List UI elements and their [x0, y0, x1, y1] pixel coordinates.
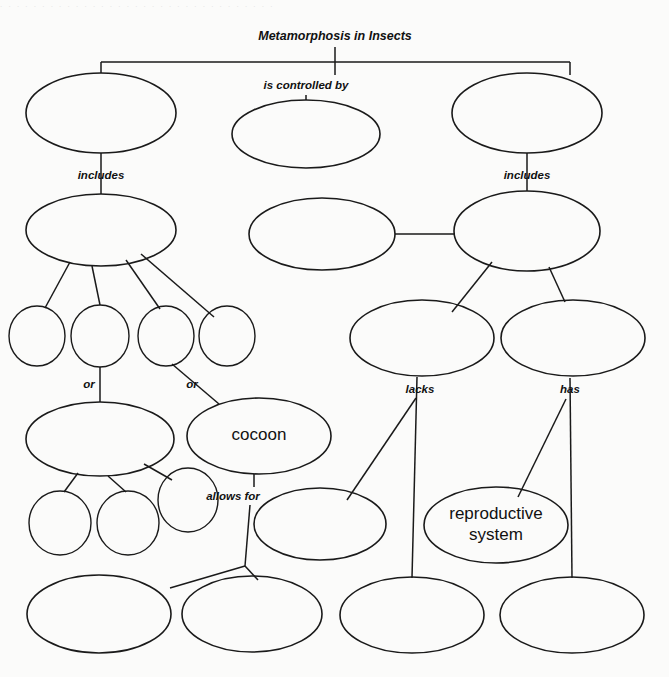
connector-n4-to-n8 — [92, 266, 100, 305]
node-outline-n16[interactable] — [97, 491, 159, 555]
node-outline-n8[interactable] — [71, 305, 129, 367]
concept-map-canvas: cocoonreproductivesystem is controlled b… — [0, 0, 669, 677]
node-outline-n13[interactable] — [26, 402, 174, 476]
connector-n11-to-n22 — [412, 377, 417, 578]
nodes-layer: cocoonreproductivesystem — [9, 73, 645, 653]
concept-node[interactable] — [199, 306, 255, 366]
concept-node[interactable] — [26, 73, 176, 153]
link-label-allows-for: allows for — [206, 490, 260, 502]
node-outline-n20[interactable] — [27, 575, 171, 653]
concept-node[interactable] — [340, 577, 484, 653]
concept-node[interactable] — [254, 488, 386, 560]
node-label-n14: cocoon — [232, 425, 287, 444]
node-outline-n18[interactable] — [254, 488, 386, 560]
connector-n13-to-n15 — [64, 473, 78, 492]
concept-node[interactable] — [454, 191, 600, 271]
node-outline-n12[interactable] — [501, 300, 645, 376]
concept-node[interactable] — [9, 306, 65, 366]
concept-node[interactable] — [249, 198, 395, 270]
node-outline-n5[interactable] — [249, 198, 395, 270]
concept-node[interactable] — [182, 576, 322, 652]
node-outline-n11[interactable] — [350, 300, 494, 376]
connector-n11-to-n18 — [347, 398, 416, 500]
node-outline-n3[interactable] — [452, 73, 602, 153]
link-label-includes-left: includes — [78, 169, 125, 181]
concept-node[interactable] — [26, 194, 176, 266]
concept-node[interactable] — [97, 491, 159, 555]
node-label-n19: reproductive — [449, 504, 543, 523]
connector-allows-stem — [245, 505, 250, 566]
node-outline-n4[interactable] — [26, 194, 176, 266]
concept-node[interactable]: cocoon — [187, 398, 331, 474]
node-outline-n21[interactable] — [182, 576, 322, 652]
node-outline-n9[interactable] — [138, 306, 194, 366]
node-outline-n22[interactable] — [340, 577, 484, 653]
link-label-is-controlled-by: is controlled by — [264, 79, 350, 91]
concept-node[interactable] — [29, 491, 91, 555]
connector-n12-to-n19 — [518, 399, 566, 497]
concept-node[interactable]: reproductivesystem — [424, 487, 568, 563]
concept-node[interactable] — [500, 577, 644, 653]
concept-node[interactable] — [350, 300, 494, 376]
link-label-or-left: or — [83, 378, 95, 390]
connector-n6-to-n12 — [549, 267, 565, 302]
concept-node[interactable] — [71, 305, 129, 367]
node-label-n19: system — [469, 525, 523, 544]
concept-node[interactable] — [27, 575, 171, 653]
cropped-text-artifact: . . . . . . . . . . . . . . . . . . . . … — [0, 0, 669, 9]
node-outline-n2[interactable] — [232, 100, 380, 168]
connector-n-mid-to-n18 — [245, 566, 258, 580]
link-label-or-right: or — [186, 378, 198, 390]
node-outline-n1[interactable] — [26, 73, 176, 153]
connector-n12-to-n23 — [570, 378, 572, 578]
concept-node[interactable] — [232, 100, 380, 168]
concept-map-title: Metamorphosis in Insects — [258, 29, 412, 43]
link-label-includes-right: includes — [504, 169, 551, 181]
link-label-lacks: lacks — [406, 383, 435, 395]
concept-node[interactable] — [452, 73, 602, 153]
connector-n4-to-n7 — [45, 262, 70, 308]
concept-node[interactable] — [501, 300, 645, 376]
concept-node[interactable] — [26, 402, 174, 476]
node-outline-n15[interactable] — [29, 491, 91, 555]
node-outline-n7[interactable] — [9, 306, 65, 366]
connector-n4-to-n9 — [126, 260, 160, 309]
link-label-has: has — [560, 383, 580, 395]
concept-node[interactable] — [138, 306, 194, 366]
node-outline-n23[interactable] — [500, 577, 644, 653]
node-outline-n6[interactable] — [454, 191, 600, 271]
connector-n13-to-n16 — [108, 476, 126, 492]
connector-n4-to-n10 — [141, 254, 214, 317]
node-outline-n10[interactable] — [199, 306, 255, 366]
